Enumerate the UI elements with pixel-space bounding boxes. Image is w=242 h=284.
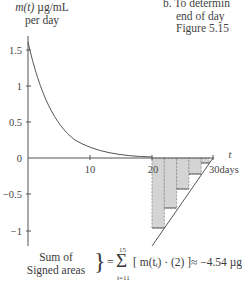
sigma-lower: i=11 xyxy=(117,274,130,282)
sum-term: [ m(tᵢ) · (2) ] xyxy=(133,256,191,268)
rect-2 xyxy=(164,158,176,208)
x-axis-var: t xyxy=(229,149,233,160)
x-tick-20: 20 xyxy=(148,164,159,175)
y-tick-1: 1 xyxy=(17,81,22,92)
rect-5 xyxy=(201,158,209,163)
decay-curve xyxy=(28,42,152,157)
y-tick-0.5: 0.5 xyxy=(9,117,22,128)
chart-plot: 1.5 1 0.5 0 −0.5 −1 10 20 30days t xyxy=(0,0,242,284)
formula-left-line-2: Signed areas xyxy=(20,264,92,277)
riemann-rectangles xyxy=(152,158,209,228)
x-tick-30days: 30days xyxy=(209,164,239,175)
rect-4 xyxy=(189,158,201,174)
x-tick-10: 10 xyxy=(85,164,96,175)
equals: = xyxy=(107,256,114,268)
y-tick-neg1: −1 xyxy=(11,226,22,237)
rect-3 xyxy=(177,158,189,189)
sigma: Σ xyxy=(116,250,127,272)
y-tick-0: 0 xyxy=(17,153,22,164)
y-tick-neg0.5: −0.5 xyxy=(3,189,22,200)
brace: } xyxy=(94,248,106,275)
y-tick-1.5: 1.5 xyxy=(9,45,22,56)
sum-result: ≈ −4.54 µg/mL xyxy=(191,256,242,268)
formula-left-line-1: Sum of xyxy=(20,251,92,264)
